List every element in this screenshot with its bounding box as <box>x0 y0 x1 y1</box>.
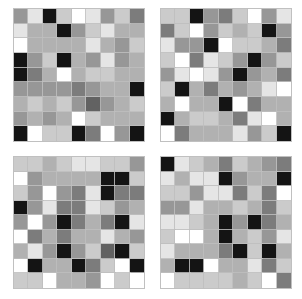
heatmap-cell <box>219 9 233 24</box>
heatmap-cell <box>190 126 204 141</box>
heatmap-cell <box>190 82 204 97</box>
heatmap-cell <box>175 68 189 83</box>
heatmap-panel-bottom-left[interactable] <box>13 156 145 289</box>
heatmap-cell <box>101 38 115 53</box>
heatmap-cell <box>262 82 276 97</box>
heatmap-cell <box>219 186 233 201</box>
heatmap-cell <box>204 215 218 230</box>
heatmap-cell <box>190 38 204 53</box>
heatmap-cell <box>101 273 115 288</box>
heatmap-cell <box>248 273 262 288</box>
heatmap-cell <box>130 53 144 68</box>
heatmap-cell <box>233 97 247 112</box>
heatmap-cell <box>262 9 276 24</box>
heatmap-cell <box>219 68 233 83</box>
heatmap-cell <box>86 172 100 187</box>
heatmap-cell <box>57 201 71 216</box>
heatmap-cell <box>115 244 129 259</box>
heatmap-cell <box>130 244 144 259</box>
heatmap-cell <box>277 38 291 53</box>
heatmap-cell <box>248 157 262 172</box>
heatmap-cell <box>130 97 144 112</box>
heatmap-cell <box>101 9 115 24</box>
heatmap-cell <box>262 172 276 187</box>
heatmap-cell <box>72 273 86 288</box>
heatmap-cell <box>57 9 71 24</box>
heatmap-cell <box>204 82 218 97</box>
heatmap-cell <box>57 186 71 201</box>
heatmap-cell <box>28 186 42 201</box>
heatmap-cell <box>14 244 28 259</box>
heatmap-cell <box>28 97 42 112</box>
heatmap-cell <box>43 244 57 259</box>
heatmap-cell <box>277 126 291 141</box>
heatmap-cell <box>161 230 175 245</box>
heatmap-cell <box>175 53 189 68</box>
heatmap-cell <box>115 68 129 83</box>
heatmap-cell <box>43 201 57 216</box>
heatmap-cell <box>57 172 71 187</box>
heatmap-cell <box>204 157 218 172</box>
heatmap-cell <box>190 24 204 39</box>
heatmap-cell <box>204 244 218 259</box>
heatmap-cell <box>248 244 262 259</box>
heatmap-cell <box>115 215 129 230</box>
heatmap-cell <box>175 273 189 288</box>
heatmap-cell <box>86 126 100 141</box>
heatmap-cell <box>190 215 204 230</box>
heatmap-cell <box>28 273 42 288</box>
heatmap-cell <box>175 97 189 112</box>
heatmap-cell <box>72 230 86 245</box>
heatmap-cell <box>233 186 247 201</box>
heatmap-cell <box>28 82 42 97</box>
heatmap-cell <box>204 9 218 24</box>
heatmap-cell <box>204 201 218 216</box>
heatmap-cell <box>43 186 57 201</box>
heatmap-panel-top-right[interactable] <box>160 8 292 142</box>
heatmap-cell <box>14 68 28 83</box>
heatmap-cell <box>204 97 218 112</box>
heatmap-cell <box>233 126 247 141</box>
heatmap-cell <box>277 230 291 245</box>
heatmap-cell <box>277 157 291 172</box>
heatmap-cell <box>262 157 276 172</box>
heatmap-cell <box>130 112 144 127</box>
heatmap-cell <box>233 273 247 288</box>
heatmap-cell <box>101 259 115 274</box>
heatmap-cell <box>277 112 291 127</box>
heatmap-cell <box>43 157 57 172</box>
heatmap-cell <box>115 186 129 201</box>
heatmap-cell <box>233 9 247 24</box>
heatmap-cell <box>57 38 71 53</box>
heatmap-cell <box>43 112 57 127</box>
heatmap-cell <box>233 68 247 83</box>
heatmap-cell <box>28 112 42 127</box>
heatmap-cell <box>233 24 247 39</box>
figure-canvas <box>0 0 302 299</box>
heatmap-cell <box>14 215 28 230</box>
heatmap-cell <box>43 53 57 68</box>
heatmap-cell <box>262 201 276 216</box>
heatmap-cell <box>277 186 291 201</box>
heatmap-cell <box>130 186 144 201</box>
heatmap-cell <box>130 172 144 187</box>
heatmap-cell <box>130 215 144 230</box>
heatmap-cell <box>161 186 175 201</box>
heatmap-cell <box>115 172 129 187</box>
heatmap-cell <box>190 259 204 274</box>
heatmap-cell <box>115 201 129 216</box>
heatmap-cell <box>219 24 233 39</box>
heatmap-cell <box>248 126 262 141</box>
heatmap-cell <box>86 186 100 201</box>
heatmap-cell <box>219 82 233 97</box>
heatmap-cell <box>86 112 100 127</box>
heatmap-cell <box>277 24 291 39</box>
heatmap-cell <box>233 82 247 97</box>
heatmap-cell <box>233 38 247 53</box>
heatmap-cell <box>14 82 28 97</box>
heatmap-panel-bottom-right[interactable] <box>160 156 292 289</box>
heatmap-panel-top-left[interactable] <box>13 8 145 142</box>
heatmap-cell <box>219 215 233 230</box>
heatmap-cell <box>130 68 144 83</box>
heatmap-cell <box>233 201 247 216</box>
